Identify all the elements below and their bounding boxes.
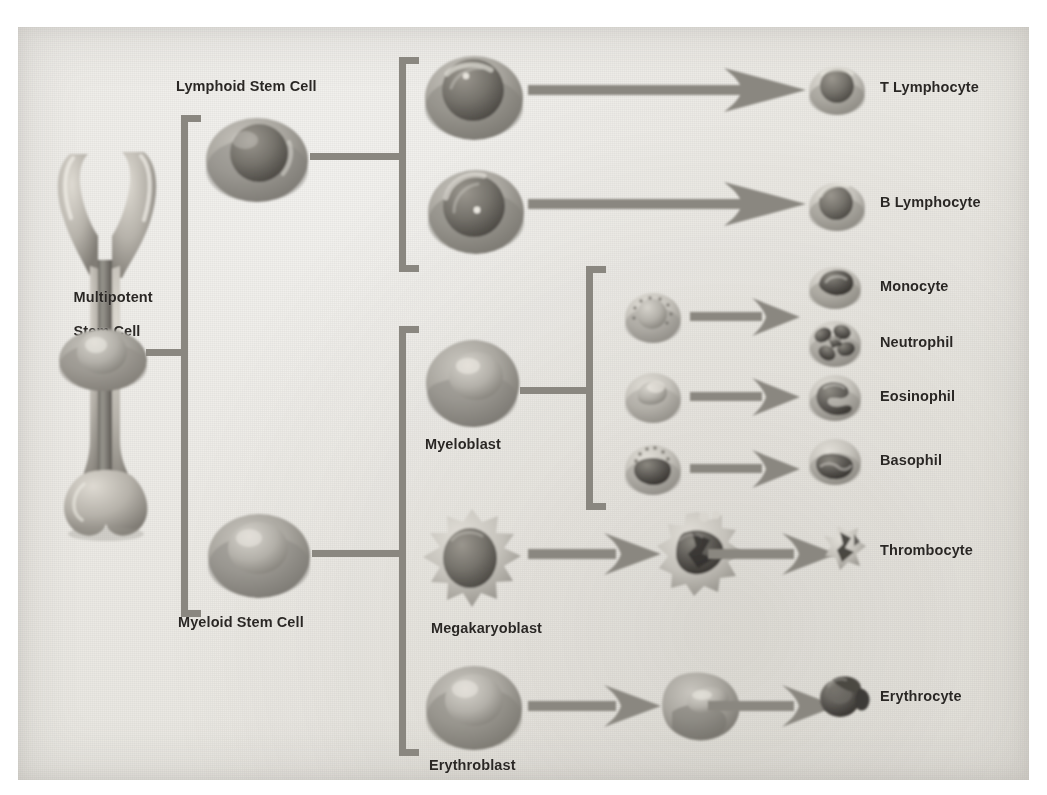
bracket-bottom-tick [399, 265, 419, 272]
monocyte-cell-icon [806, 262, 864, 312]
thrombocyte-cell-icon [818, 520, 874, 576]
neutrophil-cell-icon [806, 318, 864, 370]
myeloblast-cell-icon [421, 336, 525, 432]
bracket-spine [399, 326, 406, 756]
basophil-cell-icon [806, 436, 864, 488]
myeloid-stem-cell-icon [203, 504, 315, 604]
granulocyte-bracket [586, 266, 608, 510]
eosinophil-cell-icon [806, 372, 864, 424]
arrow-right-icon [690, 296, 802, 340]
lymphoid-bracket [399, 57, 421, 272]
granulocyte-precursor-icon [622, 368, 684, 426]
bracket-top-tick [399, 57, 419, 64]
t-lymphocyte-cell-icon [806, 60, 868, 118]
label-myeloblast: Myeloblast [425, 436, 501, 453]
connector-myeloblast-to-granulocyte-bracket [520, 387, 588, 394]
granulocyte-precursor-icon [622, 288, 684, 346]
bracket-top-tick [586, 266, 606, 273]
label-eosinophil: Eosinophil [880, 388, 955, 405]
bracket-spine [181, 115, 188, 617]
hematopoiesis-figure: Multipotent Stem Cell Lymphoid Stem Cell [0, 0, 1047, 795]
bracket-top-tick [181, 115, 201, 122]
bracket-spine [586, 266, 593, 510]
lymphoid-stem-cell-icon [201, 108, 313, 208]
arrow-right-icon [528, 682, 664, 732]
arrow-right-icon [690, 448, 802, 492]
granulocyte-precursor-icon [622, 440, 684, 498]
label-thrombocyte: Thrombocyte [880, 542, 973, 559]
b-lymphoblast-cell-icon [424, 160, 528, 258]
connector-stem-to-main-bracket [146, 349, 184, 356]
bracket-spine [399, 57, 406, 272]
label-b-lymphocyte: B Lymphocyte [880, 194, 981, 211]
label-myeloid-stem-cell: Myeloid Stem Cell [178, 614, 304, 631]
label-monocyte: Monocyte [880, 278, 948, 295]
arrow-right-icon [528, 66, 810, 116]
erythroblast-cell-icon [422, 660, 526, 756]
label-erythroblast: Erythroblast [429, 757, 516, 774]
t-lymphoblast-cell-icon [421, 48, 527, 144]
connector-lymphoid-to-bracket [310, 153, 402, 160]
connector-myeloid-to-bracket [312, 550, 402, 557]
arrow-right-icon [528, 180, 810, 230]
arrow-right-icon [528, 530, 664, 580]
stem-cell-icon [55, 318, 151, 396]
main-lineage-bracket [181, 115, 203, 617]
label-neutrophil: Neutrophil [880, 334, 954, 351]
label-multipotent-line1: Multipotent [74, 289, 153, 305]
arrow-right-icon [690, 376, 802, 420]
bracket-bottom-tick [399, 749, 419, 756]
label-basophil: Basophil [880, 452, 942, 469]
label-erythrocyte: Erythrocyte [880, 688, 962, 705]
megakaryoblast-cell-icon [418, 506, 528, 610]
bracket-top-tick [399, 326, 419, 333]
label-megakaryoblast: Megakaryoblast [431, 620, 542, 637]
erythrocyte-cell-icon [816, 672, 878, 722]
bracket-bottom-tick [586, 503, 606, 510]
b-lymphocyte-cell-icon [806, 176, 868, 234]
label-lymphoid-stem-cell: Lymphoid Stem Cell [176, 78, 317, 95]
label-t-lymphocyte: T Lymphocyte [880, 79, 979, 96]
